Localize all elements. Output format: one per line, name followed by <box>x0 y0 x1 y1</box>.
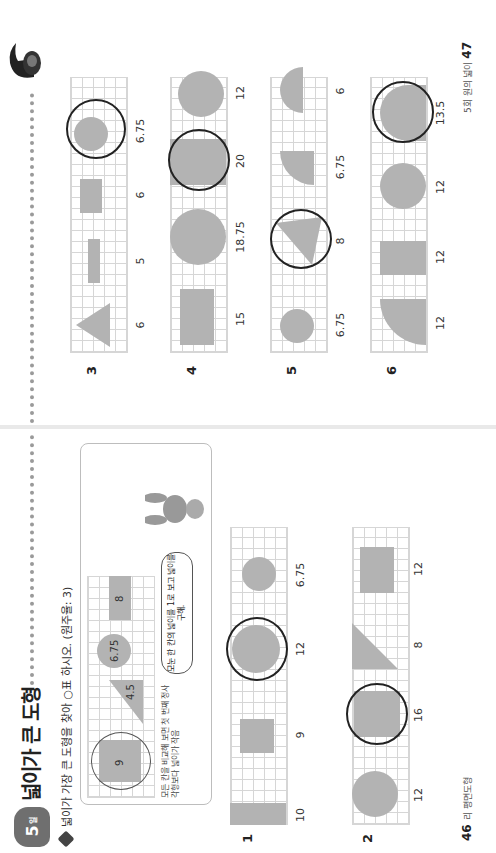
answer-circle[interactable] <box>270 209 332 269</box>
area-value: 13.5 <box>434 93 447 133</box>
area-value: 16 <box>412 695 425 735</box>
area-value: 12 <box>434 237 447 277</box>
footer-left: 46리 평면도형 <box>460 777 474 841</box>
answer-circle[interactable] <box>372 81 434 143</box>
footer-text: 리 평면도형 <box>463 777 473 820</box>
area-value: 5 <box>134 241 147 281</box>
bunny-mascot-icon <box>145 484 205 534</box>
area-value: 10 <box>294 795 307 835</box>
shape-rectangle <box>80 179 102 213</box>
area-value: 20 <box>234 141 247 181</box>
area-value: 18.75 <box>234 217 247 257</box>
area-value: 12 <box>434 167 447 207</box>
lesson-badge: 5일 <box>14 807 50 847</box>
answer-circle[interactable] <box>226 617 288 681</box>
problem-number: 1 <box>240 834 255 843</box>
workbook-spread: 5일 넓이가 큰 도형 넓이가 가장 큰 도형을 찾아 ○표 하시오. (원주율… <box>0 0 496 853</box>
problem-number: 6 <box>384 366 399 375</box>
example-label: 4.5 <box>125 684 136 700</box>
answer-circle[interactable] <box>346 683 408 745</box>
shape-circle <box>380 163 426 209</box>
area-value: 6 <box>134 305 147 345</box>
shape-circle <box>170 209 226 265</box>
shape-rectangle <box>360 547 394 593</box>
shape-rectangle <box>180 289 214 345</box>
answer-circle[interactable] <box>66 99 126 159</box>
shape-rectangle <box>230 803 286 825</box>
problem-number: 2 <box>360 834 375 843</box>
example-label: 6.75 <box>109 640 120 662</box>
example-label: 8 <box>114 596 125 602</box>
answer-circle[interactable] <box>168 129 230 191</box>
area-value: 12 <box>294 629 307 669</box>
area-value: 12 <box>234 73 247 113</box>
area-value: 8 <box>412 625 425 665</box>
lesson-number: 5 <box>23 825 42 836</box>
example-box: 9 4.5 6.75 8 모든 칸을 비교해 보면 첫 번째 정사각형보다 넓이… <box>80 443 212 805</box>
page-number: 47 <box>460 42 474 59</box>
mascot-icon <box>4 41 44 83</box>
area-value: 9 <box>294 715 307 755</box>
problem-number: 3 <box>84 366 99 375</box>
problem-number: 4 <box>184 366 199 375</box>
area-value: 6.75 <box>134 111 147 151</box>
area-value: 6.75 <box>334 305 347 345</box>
shape-rectangle <box>380 241 426 275</box>
dotted-rule <box>30 435 36 685</box>
area-value: 12 <box>434 303 447 343</box>
area-value: 6 <box>334 71 347 111</box>
shape-circle <box>280 309 314 343</box>
instruction: 넓이가 가장 큰 도형을 찾아 ○표 하시오. (원주율: 3) <box>58 587 74 845</box>
pencil-icon <box>58 831 75 848</box>
speech-bubble: 모눈 한 칸의 넓이를 1로 보고 넓이를 구해. <box>161 552 193 674</box>
area-value: 6.75 <box>334 147 347 187</box>
dotted-rule <box>30 93 36 423</box>
area-value: 8 <box>334 221 347 261</box>
shape-triangle <box>352 623 398 669</box>
lesson-suffix: 일 <box>27 817 38 824</box>
problem-number: 5 <box>284 366 299 375</box>
area-value: 12 <box>412 775 425 815</box>
area-value: 6 <box>134 175 147 215</box>
page-number: 46 <box>460 824 474 841</box>
shape-square <box>240 719 274 753</box>
area-value: 12 <box>412 549 425 589</box>
lesson-title: 넓이가 큰 도형 <box>16 687 45 801</box>
footer-right: 5회 원의 넓이 47 <box>460 38 474 113</box>
shape-circle <box>242 557 276 591</box>
example-label: 9 <box>114 760 125 766</box>
area-value: 6.75 <box>294 555 307 595</box>
shape-triangle <box>76 303 110 347</box>
shape-circle <box>178 71 224 117</box>
area-value: 15 <box>234 299 247 339</box>
shape-circle <box>352 771 398 817</box>
page-gutter <box>0 425 496 429</box>
example-hint: 모든 칸을 비교해 보면 첫 번째 정사각형보다 넓이가 작음 <box>161 678 182 798</box>
footer-text: 5회 원의 넓이 <box>463 62 473 113</box>
shape-rectangle <box>88 239 100 283</box>
instruction-text: 넓이가 가장 큰 도형을 찾아 ○표 하시오. (원주율: 3) <box>58 587 74 827</box>
